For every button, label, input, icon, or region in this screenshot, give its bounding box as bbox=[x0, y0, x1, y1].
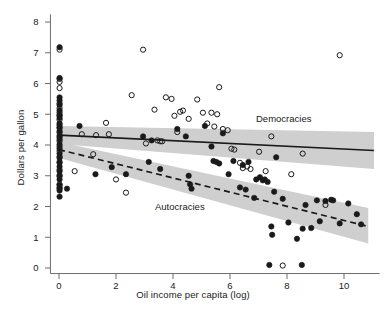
data-point bbox=[209, 110, 214, 115]
data-point bbox=[140, 134, 145, 139]
data-point bbox=[140, 47, 145, 52]
data-point bbox=[220, 131, 225, 136]
data-point bbox=[243, 187, 248, 192]
data-point bbox=[186, 173, 191, 178]
data-point bbox=[64, 186, 69, 191]
plot-canvas: 0123456780246810 bbox=[0, 0, 386, 311]
data-point bbox=[231, 158, 236, 163]
data-point bbox=[271, 189, 276, 194]
data-point bbox=[163, 95, 168, 100]
data-point bbox=[299, 262, 304, 267]
data-point bbox=[183, 134, 188, 139]
data-point bbox=[337, 221, 342, 226]
data-point bbox=[263, 169, 268, 174]
data-point bbox=[57, 188, 62, 193]
data-point bbox=[346, 201, 351, 206]
data-point bbox=[123, 172, 128, 177]
data-point bbox=[217, 85, 222, 90]
data-point bbox=[209, 144, 214, 149]
autocracies-series-label: Autocracies bbox=[155, 201, 205, 212]
data-point bbox=[212, 124, 217, 129]
data-point bbox=[215, 112, 220, 117]
data-point bbox=[273, 155, 278, 160]
y-tick-label: 7 bbox=[33, 47, 38, 58]
data-point bbox=[172, 113, 177, 118]
data-point bbox=[152, 107, 157, 112]
data-point bbox=[323, 198, 328, 203]
y-tick-label: 0 bbox=[33, 262, 38, 273]
y-tick-label: 4 bbox=[33, 139, 38, 150]
y-tick-label: 3 bbox=[33, 170, 38, 181]
data-point bbox=[186, 116, 191, 121]
data-point bbox=[57, 86, 62, 91]
data-point bbox=[57, 137, 62, 142]
scatter-plot-figure: 0123456780246810 Dollars per gallon Oil … bbox=[0, 0, 386, 311]
data-point bbox=[93, 172, 98, 177]
data-point bbox=[309, 225, 314, 230]
data-point bbox=[175, 126, 180, 131]
data-point bbox=[289, 172, 294, 177]
data-point bbox=[280, 263, 285, 268]
data-point bbox=[300, 226, 305, 231]
data-point bbox=[354, 211, 359, 216]
y-tick-label: 1 bbox=[33, 232, 38, 243]
data-point bbox=[189, 186, 194, 191]
x-axis-title: Oil income per capita (log) bbox=[0, 289, 386, 300]
data-point bbox=[269, 224, 274, 229]
data-point bbox=[330, 198, 335, 203]
y-tick-label: 8 bbox=[33, 16, 38, 27]
data-point bbox=[317, 219, 322, 224]
data-point bbox=[113, 177, 118, 182]
y-tick-label: 2 bbox=[33, 201, 38, 212]
data-point bbox=[103, 120, 108, 125]
data-point bbox=[57, 177, 62, 182]
data-point bbox=[240, 162, 245, 167]
data-point bbox=[265, 179, 270, 184]
data-point bbox=[72, 169, 77, 174]
data-point bbox=[280, 196, 285, 201]
data-point bbox=[109, 164, 114, 169]
data-point bbox=[123, 190, 128, 195]
y-tick-label: 6 bbox=[33, 78, 38, 89]
y-axis-title: Dollars per gallon bbox=[15, 78, 26, 218]
data-point bbox=[216, 161, 221, 166]
data-point bbox=[57, 102, 62, 107]
data-point bbox=[286, 220, 291, 225]
data-point bbox=[200, 110, 205, 115]
data-point bbox=[129, 93, 134, 98]
data-point bbox=[169, 96, 174, 101]
data-point bbox=[77, 123, 82, 128]
data-point bbox=[146, 159, 151, 164]
data-point bbox=[202, 123, 207, 128]
data-point bbox=[237, 185, 242, 190]
y-tick-label: 5 bbox=[33, 109, 38, 120]
data-point bbox=[314, 198, 319, 203]
data-point bbox=[57, 115, 62, 120]
data-point bbox=[303, 202, 308, 207]
data-point bbox=[157, 166, 162, 171]
data-point bbox=[195, 97, 200, 102]
democracies-series-label: Democracies bbox=[256, 113, 311, 124]
data-point bbox=[246, 159, 251, 164]
data-point bbox=[337, 53, 342, 58]
data-point bbox=[269, 232, 274, 237]
data-point bbox=[267, 262, 272, 267]
data-point bbox=[294, 236, 299, 241]
data-point bbox=[57, 194, 62, 199]
data-point bbox=[57, 75, 62, 80]
data-point bbox=[226, 172, 231, 177]
data-point bbox=[57, 45, 62, 50]
